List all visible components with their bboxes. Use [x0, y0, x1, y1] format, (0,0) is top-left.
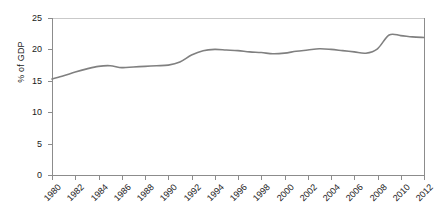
x-tick-label: 1994 — [198, 182, 226, 210]
x-tick-label: 1992 — [174, 182, 202, 210]
x-tick — [401, 176, 402, 180]
x-tick-label: 2004 — [314, 182, 342, 210]
x-tick — [215, 176, 216, 180]
x-tick-label: 1998 — [244, 182, 272, 210]
x-tick — [378, 176, 379, 180]
y-tick — [48, 18, 52, 19]
x-tick-label: 1996 — [221, 182, 249, 210]
x-tick-label: 2012 — [407, 182, 435, 210]
y-tick-label: 5 — [2, 140, 42, 149]
x-tick-label: 1988 — [128, 182, 156, 210]
x-tick — [308, 176, 309, 180]
x-tick — [331, 176, 332, 180]
y-tick — [48, 112, 52, 113]
x-tick — [261, 176, 262, 180]
x-tick-label: 1986 — [105, 182, 133, 210]
y-tick — [48, 81, 52, 82]
x-tick-label: 2006 — [337, 182, 365, 210]
x-tick — [99, 176, 100, 180]
x-tick-label: 1984 — [81, 182, 109, 210]
x-tick-label: 2000 — [267, 182, 295, 210]
x-tick-label: 2010 — [384, 182, 412, 210]
plot-right-border — [424, 18, 425, 176]
x-tick — [75, 176, 76, 180]
x-tick — [424, 176, 425, 180]
y-tick — [48, 49, 52, 50]
x-tick-label: 1990 — [151, 182, 179, 210]
plot-top-border — [52, 18, 425, 19]
y-tick-label: 20 — [2, 45, 42, 54]
chart-figure: % of GDP 0510152025 19801982198419861988… — [0, 0, 442, 215]
x-tick — [354, 176, 355, 180]
x-tick-label: 2002 — [291, 182, 319, 210]
x-tick-label: 1982 — [58, 182, 86, 210]
y-tick-label: 0 — [2, 171, 42, 180]
x-tick — [238, 176, 239, 180]
y-tick-label: 10 — [2, 108, 42, 117]
x-tick — [145, 176, 146, 180]
y-axis-line — [52, 18, 53, 176]
x-tick — [122, 176, 123, 180]
y-tick-label: 15 — [2, 77, 42, 86]
x-tick-label: 2008 — [360, 182, 388, 210]
x-tick — [285, 176, 286, 180]
x-tick-label: 1980 — [35, 182, 63, 210]
y-axis-title: % of GDP — [11, 19, 31, 105]
x-tick — [168, 176, 169, 180]
y-tick — [48, 144, 52, 145]
x-tick — [52, 176, 53, 180]
x-tick — [192, 176, 193, 180]
y-tick-label: 25 — [2, 14, 42, 23]
plot-area — [52, 18, 424, 175]
